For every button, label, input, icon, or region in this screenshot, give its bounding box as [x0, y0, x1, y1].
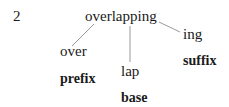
prefix-form: over: [60, 44, 87, 59]
base-label: base: [121, 91, 147, 105]
base-form: lap: [121, 64, 139, 79]
example-number: 2: [13, 9, 21, 24]
prefix-label: prefix: [60, 72, 96, 86]
suffix-form: ing: [183, 27, 202, 42]
root-word: overlapping: [85, 9, 157, 24]
suffix-label: suffix: [183, 54, 216, 68]
branch-to-suffix: [159, 22, 180, 32]
